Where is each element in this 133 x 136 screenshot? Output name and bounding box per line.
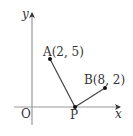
- point-p-label: P: [70, 108, 78, 122]
- y-axis-label: y: [21, 7, 29, 21]
- origin-label: O: [21, 107, 31, 121]
- segment-pb: [75, 88, 105, 107]
- segment-ap: [50, 59, 75, 107]
- x-axis-label: x: [115, 107, 122, 121]
- point-b-label: B(8, 2): [84, 73, 125, 87]
- coordinate-diagram: y x O A(2, 5) B(8, 2) P: [0, 0, 133, 136]
- point-a-label: A(2, 5): [42, 45, 84, 59]
